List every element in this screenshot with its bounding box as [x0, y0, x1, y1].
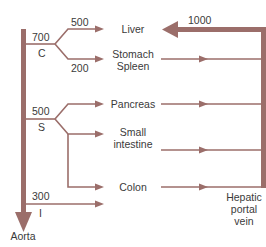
aorta-label: Aorta — [0, 230, 46, 242]
celiac-letter: C — [38, 47, 46, 59]
arrowhead-icon — [95, 101, 104, 108]
portal-vein-arrowhead-icon — [162, 21, 178, 38]
portal-flow: 1000 — [188, 14, 211, 26]
arrowhead-icon — [95, 26, 104, 33]
organ-stomach-spleen: Stomach Spleen — [105, 48, 161, 72]
colon-artery-line — [68, 134, 95, 187]
portal-vein-to-liver — [170, 27, 266, 32]
organ-small-intestine: Small intestine — [105, 126, 161, 150]
arrowhead-icon — [95, 56, 104, 63]
ima-flow: 300 — [32, 190, 50, 202]
arrowhead-icon — [95, 184, 104, 191]
arrowhead-icon — [199, 101, 208, 108]
arrowhead-icon — [95, 201, 104, 208]
organ-pancreas: Pancreas — [105, 98, 161, 110]
ima-letter: I — [39, 207, 42, 219]
portal-vein-trunk — [261, 28, 266, 188]
small-intestine-artery-line — [55, 119, 95, 134]
aorta-trunk — [21, 29, 26, 214]
liver-flow: 500 — [71, 16, 89, 28]
arrowhead-icon — [95, 131, 104, 138]
portal-vein-label: Hepatic portal vein — [222, 191, 266, 227]
organ-liver: Liver — [110, 23, 156, 35]
organ-colon: Colon — [105, 181, 161, 193]
sma-flow: 500 — [32, 105, 50, 117]
arrowhead-icon — [199, 184, 208, 191]
arrowhead-icon — [199, 147, 208, 154]
pancreas-artery-line — [55, 104, 95, 119]
liver-artery-line — [55, 29, 95, 44]
aorta-arrowhead-icon — [15, 212, 32, 232]
sma-letter: S — [38, 121, 45, 133]
stomach-artery-line — [55, 44, 95, 59]
arrowhead-icon — [199, 56, 208, 63]
stomach-flow: 200 — [71, 62, 89, 74]
celiac-flow: 700 — [32, 31, 50, 43]
